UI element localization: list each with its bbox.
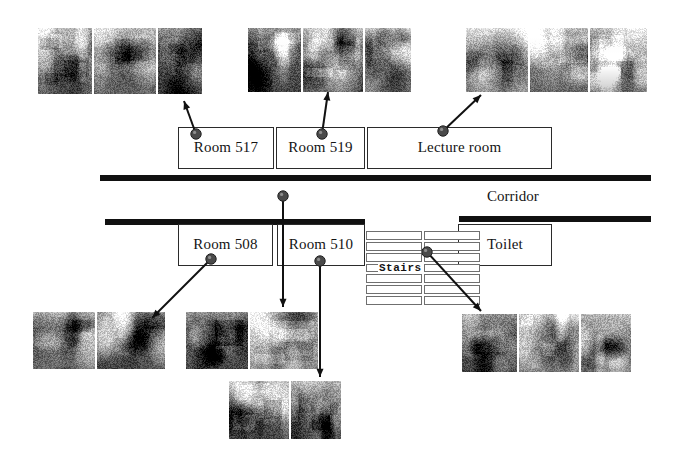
corridor-label: Corridor xyxy=(487,188,539,205)
photos-room-508 xyxy=(33,312,165,369)
photo-stairs-b xyxy=(519,314,579,372)
photo-519-a xyxy=(248,28,301,92)
photos-stairs xyxy=(462,314,631,372)
photo-517-c xyxy=(158,28,202,94)
connector-corridor-photo-arrowhead xyxy=(279,299,286,307)
photo-corridor-a xyxy=(186,312,248,369)
room-label-room-519: Room 519 xyxy=(276,139,365,156)
stair-tread xyxy=(366,285,422,294)
floor-map-figure: Room 517Room 519Lecture roomRoom 508Room… xyxy=(0,0,694,473)
stair-tread xyxy=(424,253,480,262)
stairs-label: Stairs xyxy=(378,262,423,274)
stair-tread xyxy=(366,274,422,283)
photos-room-510 xyxy=(229,381,341,439)
room-label-room-510: Room 510 xyxy=(277,236,365,253)
photo-stairs-c xyxy=(581,314,631,372)
lower-corridor-bar-right xyxy=(459,216,651,222)
stair-tread xyxy=(366,253,422,262)
photo-lecture-c xyxy=(590,28,647,92)
stair-tread xyxy=(424,231,480,240)
stair-tread xyxy=(366,231,422,240)
stair-tread xyxy=(424,242,480,251)
photos-corridor xyxy=(186,312,318,369)
photo-517-b xyxy=(94,28,156,94)
marker-room-508-upper-highlight xyxy=(280,193,283,196)
stair-tread xyxy=(424,264,480,273)
photo-508-b xyxy=(97,312,165,369)
upper-corridor-bar xyxy=(100,175,651,181)
photo-stairs-a xyxy=(462,314,517,372)
photo-519-b xyxy=(303,28,363,92)
photos-room-517 xyxy=(38,28,202,94)
photo-510-a xyxy=(229,381,289,439)
marker-room-508-upper[interactable] xyxy=(278,191,288,201)
photo-corridor-b xyxy=(250,312,318,369)
photo-lecture-b xyxy=(530,28,588,92)
room-label-room-517: Room 517 xyxy=(178,139,274,156)
stair-tread xyxy=(366,296,422,305)
room-label-lecture-room: Lecture room xyxy=(367,139,552,156)
room-label-room-508: Room 508 xyxy=(178,236,273,253)
connector-lecture-room xyxy=(443,95,481,131)
connector-lecture-room-arrowhead xyxy=(473,95,481,103)
photos-lecture-room xyxy=(466,28,647,92)
stair-tread xyxy=(424,285,480,294)
stair-tread xyxy=(424,296,480,305)
stair-tread xyxy=(366,242,422,251)
connector-room-519-arrowhead xyxy=(323,92,330,101)
connector-room-508 xyxy=(152,259,211,318)
connector-room-510-arrowhead xyxy=(316,369,323,377)
photo-517-a xyxy=(38,28,92,94)
stair-tread xyxy=(424,274,480,283)
photo-519-c xyxy=(365,28,411,92)
photo-510-b xyxy=(291,381,341,439)
photo-lecture-a xyxy=(466,28,528,92)
photos-room-519 xyxy=(248,28,411,92)
connector-room-517-arrowhead xyxy=(184,101,191,110)
photo-508-a xyxy=(33,312,95,369)
stairs-right-column xyxy=(424,231,480,307)
